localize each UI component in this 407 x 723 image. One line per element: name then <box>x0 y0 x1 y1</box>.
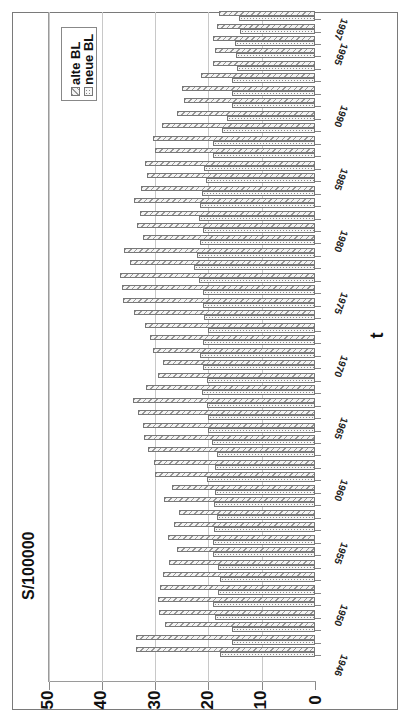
bar-neue-bl-1991 <box>232 91 315 96</box>
year-tick <box>315 243 321 244</box>
value-tick-label: 30 <box>145 691 165 710</box>
legend-label-neue: neue BL <box>81 34 96 85</box>
value-tick-label: 10 <box>252 691 272 710</box>
bar-neue-bl-1982 <box>200 203 315 208</box>
bar-neue-bl-1987 <box>213 141 315 146</box>
year-tick <box>315 194 321 195</box>
bar-neue-bl-1967 <box>202 390 315 395</box>
value-tick-label: 50 <box>38 691 58 710</box>
bar-neue-bl-1986 <box>213 153 315 158</box>
value-tick <box>49 682 50 690</box>
bar-neue-bl-1976 <box>199 278 315 283</box>
year-tick <box>315 431 321 432</box>
year-tick <box>315 256 321 257</box>
bar-neue-bl-1979 <box>200 240 315 245</box>
bar-neue-bl-1996 <box>240 29 315 34</box>
bar-neue-bl-1952 <box>220 577 315 582</box>
year-tick <box>315 555 321 556</box>
year-tick <box>315 618 321 619</box>
year-tick <box>315 331 321 332</box>
bar-neue-bl-1951 <box>218 590 315 595</box>
bar-neue-bl-1997 <box>239 16 315 21</box>
bar-neue-bl-1978 <box>197 253 315 258</box>
value-tick <box>208 682 209 690</box>
year-tick <box>315 393 321 394</box>
year-tick <box>315 169 321 170</box>
bar-neue-bl-1946 <box>220 652 315 657</box>
year-tick <box>315 32 321 33</box>
year-tick <box>315 306 321 307</box>
bar-neue-bl-1956 <box>214 527 315 532</box>
bar-neue-bl-1971 <box>203 340 315 345</box>
bar-neue-bl-1981 <box>199 216 315 221</box>
year-tick <box>315 505 321 506</box>
bar-neue-bl-1988 <box>222 128 315 133</box>
bar-neue-bl-1975 <box>203 290 315 295</box>
bar-neue-bl-1968 <box>207 378 315 383</box>
bar-neue-bl-1948 <box>232 627 315 632</box>
gridline <box>102 12 103 682</box>
year-tick <box>315 219 321 220</box>
year-tick <box>315 343 321 344</box>
bar-neue-bl-1995 <box>235 41 315 46</box>
bar-neue-bl-1950 <box>213 602 315 607</box>
x-axis-title: t <box>367 333 388 339</box>
year-tick <box>315 131 321 132</box>
bar-neue-bl-1993 <box>237 66 315 71</box>
year-tick <box>315 19 321 20</box>
value-tick-label: 20 <box>198 691 218 710</box>
bar-neue-bl-1947 <box>232 640 315 645</box>
bar-neue-bl-1959 <box>215 490 315 495</box>
year-tick <box>315 518 321 519</box>
bar-neue-bl-1969 <box>203 365 315 370</box>
value-tick <box>262 682 263 690</box>
bar-neue-bl-1954 <box>213 552 315 557</box>
legend-item-neue-bl: neue BL <box>81 34 96 96</box>
year-tick <box>315 480 321 481</box>
year-tick <box>315 468 321 469</box>
bar-neue-bl-1963 <box>212 440 315 445</box>
year-tick <box>315 106 321 107</box>
year-tick <box>315 318 321 319</box>
year-tick <box>315 156 321 157</box>
hatch-swatch-icon <box>71 87 80 96</box>
value-tick-label: 0 <box>305 695 325 704</box>
bar-neue-bl-1983 <box>202 191 315 196</box>
bar-neue-bl-1966 <box>207 403 315 408</box>
bar-neue-bl-1985 <box>204 166 315 171</box>
year-tick <box>315 56 321 57</box>
year-tick <box>315 144 321 145</box>
bar-neue-bl-1984 <box>206 178 315 183</box>
year-tick <box>315 119 321 120</box>
year-tick <box>315 281 321 282</box>
year-tick <box>315 418 321 419</box>
bar-neue-bl-1962 <box>217 452 315 457</box>
bar-neue-bl-1974 <box>203 303 315 308</box>
bar-neue-bl-1972 <box>208 328 315 333</box>
bar-neue-bl-1980 <box>203 228 315 233</box>
dotted-swatch-icon <box>84 87 93 96</box>
bar-neue-bl-1992 <box>232 78 315 83</box>
year-tick <box>315 44 321 45</box>
year-tick <box>315 94 321 95</box>
year-tick <box>315 206 321 207</box>
value-tick <box>315 682 316 690</box>
bar-neue-bl-1964 <box>208 428 315 433</box>
year-tick <box>315 69 321 70</box>
year-tick <box>315 580 321 581</box>
year-tick <box>315 268 321 269</box>
year-tick <box>315 593 321 594</box>
year-tick <box>315 655 321 656</box>
year-tick <box>315 231 321 232</box>
gridline <box>49 12 50 682</box>
year-tick <box>315 181 321 182</box>
year-tick <box>315 493 321 494</box>
y-axis-title: S/100000 <box>20 531 38 600</box>
year-tick <box>315 605 321 606</box>
year-tick <box>315 643 321 644</box>
bar-neue-bl-1961 <box>215 465 315 470</box>
year-tick <box>315 381 321 382</box>
legend: alte BL neue BL <box>61 27 97 101</box>
year-tick <box>315 543 321 544</box>
bar-neue-bl-1955 <box>213 540 315 545</box>
